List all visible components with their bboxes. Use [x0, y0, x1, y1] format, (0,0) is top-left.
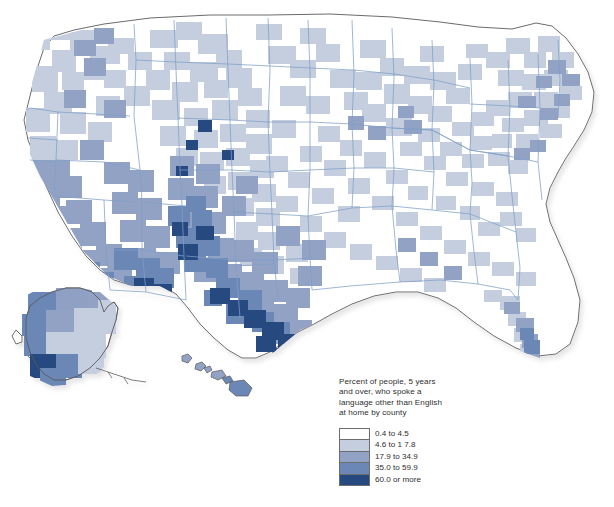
legend-label: 35.0 to 59.9 [370, 462, 418, 474]
legend-label: 60.0 or more [370, 474, 421, 486]
legend-caption-line: and over, who spoke a [339, 387, 461, 397]
legend-caption-line: Percent of people, 5 years [339, 377, 461, 387]
legend-item: 4.6 to 1 7.8 [339, 439, 499, 451]
legend-label: 4.6 to 1 7.8 [370, 439, 416, 451]
legend-item: 17.9 to 34.9 [339, 451, 499, 463]
legend-caption: Percent of people, 5 years and over, who… [339, 377, 461, 419]
legend-item: 35.0 to 59.9 [339, 462, 499, 474]
map-legend: Percent of people, 5 years and over, who… [339, 377, 499, 486]
legend-swatch [339, 451, 370, 463]
map-svg [0, 0, 614, 507]
choropleth-map [0, 0, 614, 507]
legend-swatch [339, 439, 370, 451]
legend-label: 0.4 to 4.5 [370, 428, 409, 440]
legend-swatch [339, 462, 370, 474]
legend-swatch [339, 474, 370, 486]
legend-caption-line: at home by county [339, 408, 461, 418]
legend-caption-line: language other than English [339, 398, 461, 408]
legend-scale: 0.4 to 4.5 4.6 to 1 7.8 17.9 to 34.9 35.… [339, 428, 499, 486]
legend-swatch [339, 428, 370, 440]
legend-label: 17.9 to 34.9 [370, 451, 418, 463]
legend-item: 60.0 or more [339, 474, 499, 486]
legend-item: 0.4 to 4.5 [339, 428, 499, 440]
